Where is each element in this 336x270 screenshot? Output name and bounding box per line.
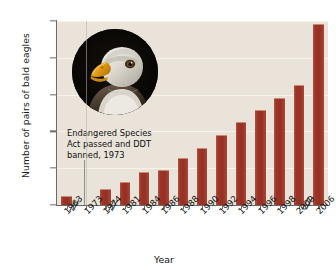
bar — [216, 135, 227, 205]
y-tick-mark — [50, 94, 57, 95]
bar — [197, 148, 208, 205]
gridline — [57, 21, 328, 22]
y-axis-title: Number of pairs of bald eagles — [20, 18, 31, 193]
bar — [313, 24, 324, 205]
axis-break-mark: // — [303, 196, 311, 211]
y-tick-mark — [50, 57, 57, 58]
axis-break-mark: // — [70, 199, 77, 212]
year-1973-reference-line — [86, 21, 87, 205]
bar — [274, 98, 285, 205]
y-tick-mark — [50, 168, 57, 169]
bar — [236, 122, 247, 205]
bar — [294, 85, 305, 205]
y-tick-mark — [50, 131, 57, 132]
y-tick-mark — [50, 20, 57, 21]
axis-break-mark: // — [109, 199, 116, 212]
bar — [255, 110, 266, 205]
y-axis-line — [56, 20, 57, 206]
gridline — [57, 168, 328, 169]
x-axis-title: Year — [0, 254, 328, 265]
y-tick-mark — [50, 204, 57, 205]
